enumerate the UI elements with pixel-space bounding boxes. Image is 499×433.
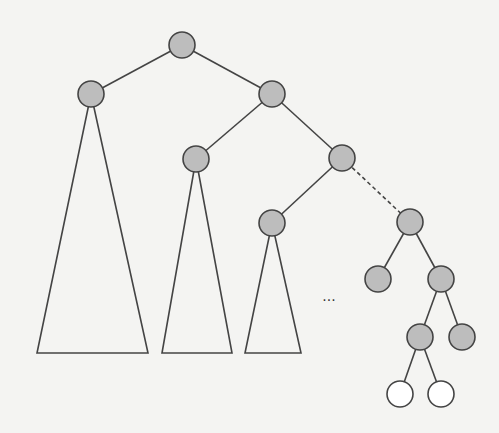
subtree-triangle-3 [245, 223, 301, 353]
tree-node-l4-left [365, 266, 391, 292]
tree-node-root [169, 32, 195, 58]
subtree-triangle-1 [37, 94, 148, 353]
tree-node-l5-right [449, 324, 475, 350]
edge-l1-right-to-l2-right [272, 94, 342, 158]
edge-l1-right-to-l2-left [196, 94, 272, 159]
tree-node-l2-right [329, 145, 355, 171]
edge-l2-right-to-l3-right [342, 158, 410, 222]
binary-tree-diagram: ... [0, 0, 499, 433]
tree-node-l4-right [428, 266, 454, 292]
tree-node-l1-left [78, 81, 104, 107]
edge-l2-right-to-l3-left [272, 158, 342, 223]
edge-root-to-l1-right [182, 45, 272, 94]
ellipsis-label: ... [322, 288, 335, 304]
tree-node-l2-left [183, 146, 209, 172]
tree-node-l5-left [407, 324, 433, 350]
edge-root-to-l1-left [91, 45, 182, 94]
tree-node-l1-right [259, 81, 285, 107]
tree-node-l6-left [387, 381, 413, 407]
tree-node-l6-right [428, 381, 454, 407]
subtree-triangle-2 [162, 159, 232, 353]
tree-node-l3-left [259, 210, 285, 236]
tree-node-l3-right [397, 209, 423, 235]
